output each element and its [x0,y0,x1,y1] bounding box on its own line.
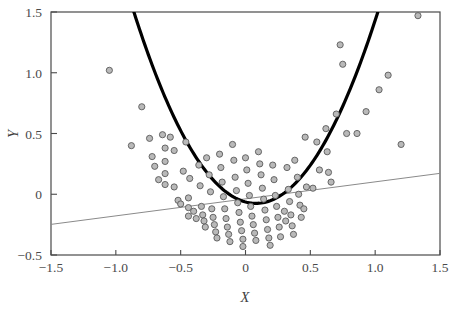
data-point [274,203,280,209]
data-point [272,192,278,198]
data-point [301,206,307,212]
data-point [284,164,290,170]
data-point [146,135,152,141]
data-point [240,243,246,249]
data-point [251,230,257,236]
data-point [198,203,204,209]
y-tick-label: 0.5 [25,127,42,142]
data-point [270,162,276,168]
data-point [223,215,229,221]
data-point [209,206,215,212]
data-point [283,218,289,224]
data-point [191,208,197,214]
data-point [398,141,404,147]
data-point [240,236,246,242]
data-point [255,149,261,155]
data-point [178,201,184,207]
data-point [276,224,282,230]
data-point [156,177,162,183]
y-tick-label: −0.5 [18,248,43,263]
data-point [210,214,216,220]
data-point [263,217,269,223]
data-point [162,170,168,176]
data-point [167,134,173,140]
y-tick-label: 1.0 [25,66,42,81]
data-point [171,147,177,153]
data-point [288,212,294,218]
data-point [324,149,330,155]
y-tick-label: 1.5 [25,5,42,20]
data-point [314,139,320,145]
x-tick-label: 1.0 [367,260,384,275]
data-point [204,155,210,161]
data-point [376,87,382,93]
data-point [162,158,168,164]
data-point [385,72,391,78]
data-point [262,207,268,213]
data-point [206,172,212,178]
data-point [261,196,267,202]
data-point [187,175,193,181]
data-point [285,186,291,192]
data-point [149,153,155,159]
data-point [249,213,255,219]
data-point [159,132,165,138]
data-point [171,184,177,190]
data-point [337,42,343,48]
data-point [239,228,245,234]
data-point [237,219,243,225]
x-tick-label: 0.5 [302,260,319,275]
data-point [232,174,238,180]
data-point [259,185,265,191]
data-point [258,172,264,178]
data-point [298,214,304,220]
data-point [328,179,334,185]
data-point [244,167,250,173]
data-point [202,224,208,230]
data-point [235,200,241,206]
chart-figure: −1.5−1.0−0.500.51.01.5 −0.500.51.01.5 X … [0,0,451,312]
data-point [185,195,191,201]
data-point [183,139,189,145]
y-tick-label: 0 [35,187,42,202]
data-point [245,180,251,186]
data-point [128,143,134,149]
data-point [363,109,369,115]
data-point [106,67,112,73]
data-point [323,126,329,132]
data-point [271,177,277,183]
data-point [222,206,228,212]
scatter-plot-canvas: −1.5−1.0−0.500.51.01.5 −0.500.51.01.5 X … [0,0,451,312]
data-point [216,151,222,157]
data-point [292,157,298,163]
data-point [197,183,203,189]
data-point [344,130,350,136]
data-point [333,111,339,117]
data-point [302,134,308,140]
x-axis-title: X [240,289,251,305]
data-point [193,215,199,221]
data-point [229,141,235,147]
data-point [250,222,256,228]
data-point [224,224,230,230]
data-point [220,194,226,200]
data-point [253,237,259,243]
data-point [218,164,224,170]
data-point [340,61,346,67]
data-point [231,157,237,163]
data-point [281,208,287,214]
data-point [248,203,254,209]
x-tick-label: −0.5 [168,260,193,275]
data-point [152,163,158,169]
data-point [162,181,168,187]
data-point [294,174,300,180]
data-point [264,226,270,232]
data-point [354,130,360,136]
data-point [267,242,273,248]
data-point [289,223,295,229]
data-point [316,167,322,173]
data-point [290,231,296,237]
data-point [207,189,213,195]
data-point [303,184,309,190]
data-point [275,214,281,220]
